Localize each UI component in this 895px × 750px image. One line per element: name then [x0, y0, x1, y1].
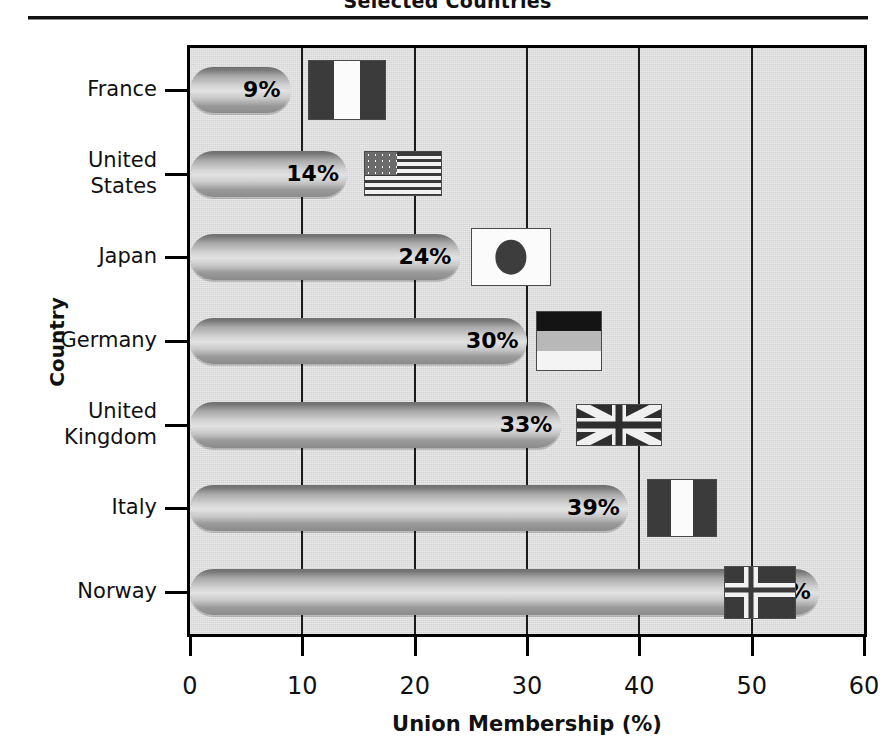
y-axis-tick — [165, 424, 187, 427]
x-axis-tick-label: 20 — [385, 672, 445, 700]
x-axis-tick-label: 60 — [834, 672, 894, 700]
y-axis-label: Japan — [40, 243, 157, 269]
flag-france-icon — [308, 60, 386, 120]
x-axis-tick-label: 0 — [160, 672, 220, 700]
chart-title: Selected Countries — [0, 0, 895, 12]
bar-italy — [190, 485, 628, 531]
x-axis-tick — [751, 634, 754, 656]
bar-row: 9% — [190, 67, 864, 113]
y-axis-label-line: United — [40, 147, 157, 173]
flag-united-states-icon — [364, 151, 442, 196]
y-axis-tick — [165, 256, 187, 259]
y-axis-tick — [165, 507, 187, 510]
y-axis-label: UnitedStates — [40, 147, 157, 199]
bar-row: 39% — [190, 485, 864, 531]
y-axis-label-line: Kingdom — [40, 424, 157, 450]
flag-italy-icon — [647, 479, 717, 537]
bar-value-label: 39% — [567, 485, 620, 531]
bar-row: 33% — [190, 402, 864, 448]
flag-germany-icon — [536, 311, 602, 371]
flag-united-kingdom-icon — [576, 404, 662, 446]
plot-area: 9%14%24%30%33%39%56% — [187, 45, 867, 637]
y-axis-label-line: States — [40, 173, 157, 199]
x-axis-title: Union Membership (%) — [187, 712, 867, 736]
y-axis-label: France — [40, 76, 157, 102]
x-axis-tick-label: 30 — [497, 672, 557, 700]
y-axis-label: Italy — [40, 494, 157, 520]
y-axis-tick — [165, 173, 187, 176]
x-axis-tick-label: 10 — [272, 672, 332, 700]
y-axis-tick — [165, 591, 187, 594]
y-axis-title: Country — [45, 277, 69, 407]
title-divider — [28, 16, 868, 19]
x-axis-tick-label: 40 — [609, 672, 669, 700]
x-axis-tick — [414, 634, 417, 656]
bar-row: 14% — [190, 151, 864, 197]
bar-row: 30% — [190, 318, 864, 364]
y-axis-tick — [165, 89, 187, 92]
x-axis-tick — [189, 634, 192, 656]
x-axis-tick — [526, 634, 529, 656]
y-axis-label: Norway — [40, 578, 157, 604]
x-axis-tick — [638, 634, 641, 656]
bar-value-label: 14% — [286, 151, 339, 197]
x-axis-tick — [863, 634, 866, 656]
bar-value-label: 30% — [466, 318, 519, 364]
flag-norway-icon — [724, 566, 796, 619]
y-axis-tick — [165, 340, 187, 343]
x-axis-tick-label: 50 — [722, 672, 782, 700]
flag-japan-icon — [471, 228, 551, 286]
bar-value-label: 33% — [500, 402, 553, 448]
x-axis-tick — [301, 634, 304, 656]
bar-value-label: 24% — [399, 234, 452, 280]
bar-value-label: 9% — [243, 67, 280, 113]
chart-page: Selected Countries 9%14%24%30%33%39%56% … — [0, 0, 895, 750]
